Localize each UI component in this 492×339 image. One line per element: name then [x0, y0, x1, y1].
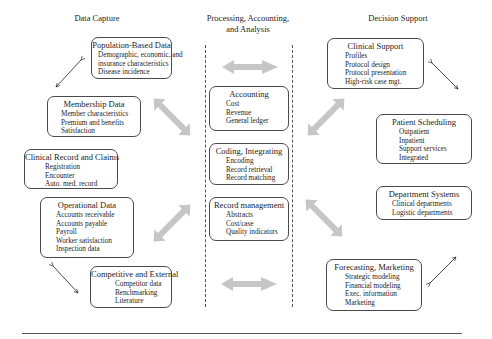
item: Inspection data: [56, 245, 133, 254]
item: Profiles: [345, 52, 423, 61]
item: Competitor data: [115, 280, 171, 289]
bottom-rule: [22, 333, 462, 334]
item: Cost/case: [226, 220, 288, 229]
item: Record matching: [226, 174, 288, 183]
clinical-support-box: Clinical Support Profiles Protocol desig…: [327, 38, 424, 89]
gray-arrow-lower-left-icon: [148, 199, 196, 247]
item: Accounts receivable: [56, 211, 133, 220]
item: Integrated: [399, 154, 471, 163]
box-title: Coding, Integrating: [210, 146, 288, 157]
box-items: Clinical departments Logistic department…: [377, 200, 471, 217]
thin-arrow-clinical-support-icon: [432, 63, 458, 89]
item: Accounts payable: [56, 220, 133, 229]
population-based-data-box: Population-Based Data Demographic, econo…: [91, 37, 172, 79]
item: Demographic, economic, and: [98, 51, 171, 60]
item: Exec. information: [345, 290, 421, 299]
item: Abstracts: [226, 211, 288, 220]
item: General ledger: [226, 117, 288, 126]
item: Support services: [399, 145, 471, 154]
clinical-record-claims-box: Clinical Record and Claims Registration …: [24, 149, 118, 189]
item: Literature: [115, 297, 171, 306]
box-title: Department Systems: [377, 189, 471, 200]
item: Member characteristics: [61, 110, 140, 119]
box-items: Profiles Protocol design Protocol presen…: [328, 52, 423, 86]
department-systems-box: Department Systems Clinical departments …: [376, 186, 472, 220]
box-title: Accounting: [210, 89, 288, 100]
item: Registration: [45, 163, 117, 172]
item: Protocol presentation: [345, 69, 423, 78]
membership-data-box: Membership Data Member characteristics P…: [47, 96, 141, 137]
item: Disease incidence: [98, 68, 171, 77]
box-items: Abstracts Cost/case Quality indicators: [210, 211, 288, 237]
item: Auto. med. record: [45, 180, 117, 189]
gray-arrow-top-horizontal-icon: [222, 60, 278, 74]
thin-arrow-forecasting-icon: [430, 257, 456, 283]
item: Benchmarking: [115, 289, 171, 298]
box-items: Registration Encounter Auto. med. record: [25, 163, 117, 189]
box-items: Outpatient Inpatient Support services In…: [377, 128, 471, 162]
box-title: Patient Scheduling: [377, 117, 471, 128]
accounting-box: Accounting Cost Revenue General ledger: [209, 86, 289, 131]
box-title: Clinical Support: [328, 41, 423, 52]
box-items: Encoding Record retrieval Record matchin…: [210, 157, 288, 183]
operational-data-box: Operational Data Accounts receivable Acc…: [40, 197, 134, 258]
item: Payroll: [56, 228, 133, 237]
item: Logistic departments: [392, 209, 471, 218]
item: Record retrieval: [226, 166, 288, 175]
box-title: Clinical Record and Claims: [25, 152, 117, 163]
item: Encounter: [45, 172, 117, 181]
item: High-risk case mgt.: [345, 78, 423, 87]
item: Strategic modeling: [345, 273, 421, 282]
gray-arrow-bottom-horizontal-icon: [221, 277, 277, 291]
box-title: Membership Data: [48, 99, 140, 110]
box-items: Strategic modeling Financial modeling Ex…: [327, 273, 421, 307]
forecasting-marketing-box: Forecasting, Marketing Strategic modelin…: [326, 259, 422, 311]
item: Satisfaction: [61, 127, 140, 136]
box-title: Competitive and External: [91, 269, 171, 280]
patient-scheduling-box: Patient Scheduling Outpatient Inpatient …: [376, 114, 472, 164]
item: Revenue: [226, 109, 288, 118]
item: Quality indicators: [226, 228, 288, 237]
box-title: Operational Data: [41, 200, 133, 211]
box-items: Demographic, economic, and insurance cha…: [92, 51, 171, 77]
item: Cost: [226, 100, 288, 109]
item: Financial modeling: [345, 282, 421, 291]
gray-arrow-upper-left-icon: [148, 93, 196, 141]
record-management-box: Record management Abstracts Cost/case Qu…: [209, 197, 289, 241]
item: Marketing: [345, 299, 421, 308]
thin-arrow-operational-competitive-icon: [53, 266, 78, 293]
box-items: Cost Revenue General ledger: [210, 100, 288, 126]
gray-arrow-upper-right-icon: [302, 93, 350, 141]
box-title: Record management: [210, 200, 288, 211]
box-items: Accounts receivable Accounts payable Pay…: [41, 211, 133, 254]
item: Worker satisfaction: [56, 237, 133, 246]
item: Clinical departments: [392, 200, 471, 209]
item: Outpatient: [399, 128, 471, 137]
item: Encoding: [226, 157, 288, 166]
box-items: Member characteristics Premium and benef…: [48, 110, 140, 136]
competitive-external-box: Competitive and External Competitor data…: [90, 266, 172, 308]
coding-integrating-box: Coding, Integrating Encoding Record retr…: [209, 143, 289, 185]
item: Protocol design: [345, 61, 423, 70]
item: insurance characteristics: [98, 60, 171, 69]
item: Premium and benefits: [61, 119, 140, 128]
thin-arrow-popdata-membership-icon: [56, 60, 81, 87]
gray-arrow-lower-right-icon: [300, 194, 348, 242]
box-items: Competitor data Benchmarking Literature: [91, 280, 171, 306]
box-title: Forecasting, Marketing: [327, 262, 421, 273]
box-title: Population-Based Data: [92, 40, 171, 51]
item: Inpatient: [399, 137, 471, 146]
